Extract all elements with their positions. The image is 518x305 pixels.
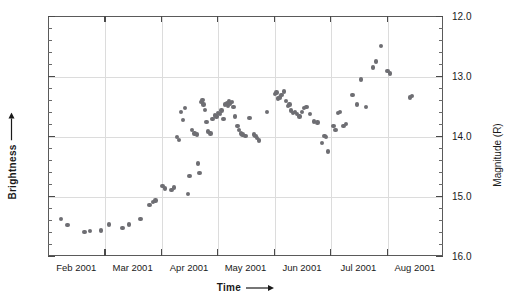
arrow-right-icon <box>244 283 274 294</box>
arrow-right-icon <box>7 112 18 140</box>
y-axis-tick-label: 12.0 <box>452 11 471 22</box>
x-axis-tick-label: Feb 2001 <box>56 262 96 273</box>
x-axis-tick-label: Jul 2001 <box>340 262 376 273</box>
x-tick-bottom <box>104 249 105 256</box>
x-tick-bottom <box>274 249 275 256</box>
y-axis-tick-label: 13.0 <box>452 71 471 82</box>
x-tick-top <box>161 16 162 22</box>
x-axis-title: Time <box>48 282 443 294</box>
x-tick-top <box>387 16 388 22</box>
y-axis-right-title: Magnitude (R) <box>486 95 508 215</box>
x-tick-top <box>217 16 218 22</box>
chart-figure: 3C 279 12.013.014.015.016.0 Feb 2001Mar … <box>0 0 518 305</box>
x-tick-top <box>274 16 275 22</box>
y-tick-major-left <box>48 256 55 257</box>
x-tick-top <box>330 16 331 22</box>
x-tick-bottom <box>217 249 218 256</box>
x-axis-title-text: Time <box>217 282 241 293</box>
x-axis-tick-label: Jun 2001 <box>282 262 321 273</box>
y-axis-tick-label: 15.0 <box>452 191 471 202</box>
y-axis-left-title: Brightness <box>2 96 22 216</box>
y-tick-major-right <box>436 256 443 257</box>
x-tick-top <box>104 16 105 22</box>
x-axis-tick-label: Mar 2001 <box>113 262 153 273</box>
x-tick-bottom <box>330 249 331 256</box>
x-tick-bottom <box>161 249 162 256</box>
y-axis-tick-label: 16.0 <box>452 251 471 262</box>
x-tick-bottom <box>387 249 388 256</box>
x-axis-tick-label: Aug 2001 <box>394 262 435 273</box>
x-axis-ticks <box>48 16 443 256</box>
x-axis-tick-label: Apr 2001 <box>170 262 209 273</box>
x-axis-tick-label: May 2001 <box>225 262 267 273</box>
y-axis-tick-label: 14.0 <box>452 131 471 142</box>
y-axis-left-title-text: Brightness <box>7 144 18 199</box>
y-axis-right-title-text: Magnitude (R) <box>492 123 503 186</box>
